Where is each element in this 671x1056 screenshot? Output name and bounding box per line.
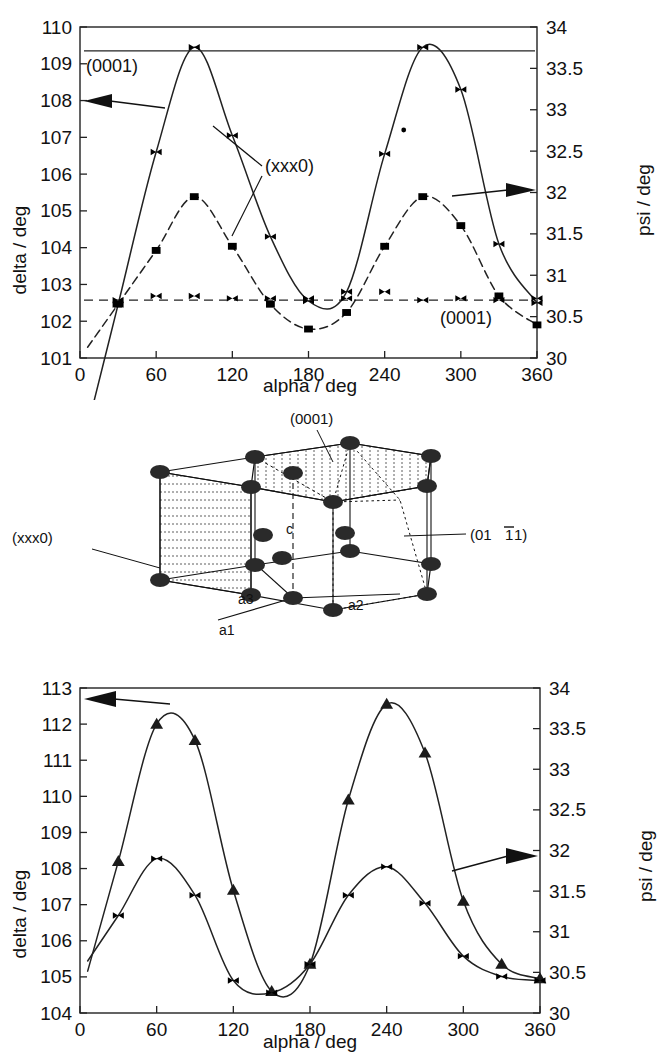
- data-point-triangle: [342, 794, 355, 805]
- x-tick-label: 120: [216, 364, 248, 385]
- y-tick-label: 108: [40, 90, 72, 111]
- crystal-label-prism: (xxx0): [12, 529, 53, 546]
- y-tick-label: 109: [40, 822, 72, 843]
- data-point-square: [380, 243, 389, 250]
- data-point-bowtie: [151, 855, 162, 861]
- bottom-chart: 0601201802403003601041051061071081091101…: [0, 666, 671, 1056]
- series-markers-stray point: [401, 128, 406, 133]
- series-curve-(0111) psi: [88, 858, 540, 994]
- data-point-bowtie: [228, 977, 239, 983]
- top-chart: 0601201802403003601011021031041051061071…: [0, 0, 671, 400]
- x-tick-label: 60: [146, 364, 167, 385]
- y2-tick-label: 33: [546, 99, 567, 120]
- series-markers-(0111) delta: [112, 698, 546, 996]
- data-point-square: [190, 193, 199, 200]
- y2-tick-label: 31.5: [549, 881, 586, 902]
- svg-text:1): 1): [514, 526, 527, 543]
- data-point-bowtie: [381, 864, 392, 870]
- data-point-bowtie: [496, 973, 507, 979]
- y2-tick-label: 34: [549, 678, 571, 699]
- data-point-bowtie: [420, 900, 431, 906]
- top-xxx0-leader: [213, 126, 262, 236]
- x-tick-label: 300: [447, 1019, 479, 1040]
- bottom-right-arrow-icon: [452, 848, 538, 871]
- y-tick-label: 110: [42, 786, 72, 807]
- y-tick-label: 104: [40, 237, 72, 258]
- y-tick-label: 102: [40, 311, 72, 332]
- top-annot-0001-lower: (0001): [440, 308, 492, 328]
- y2-tick-label: 31: [549, 921, 570, 942]
- series-markers-(0001) psi: [113, 289, 543, 304]
- data-point-square: [304, 326, 313, 333]
- y2-tick-label: 34: [546, 17, 568, 38]
- data-point-square: [533, 321, 542, 328]
- x-tick-label: 0: [75, 364, 86, 385]
- y-tick-label: 107: [40, 894, 72, 915]
- y2-tick-label: 32: [546, 182, 567, 203]
- data-point-bowtie: [227, 132, 238, 138]
- x-tick-label: 240: [369, 364, 401, 385]
- bottom-right-axis-title: psi / deg: [635, 830, 656, 902]
- data-point-square: [266, 301, 275, 308]
- data-point-square: [228, 243, 237, 250]
- data-point-dot: [401, 128, 406, 133]
- top-right-axis-title: psi / deg: [633, 164, 654, 236]
- crystal-label-pyramidal: (01 1 1): [470, 526, 527, 543]
- top-annot-0001-upper: (0001): [86, 56, 138, 76]
- data-point-square: [418, 193, 427, 200]
- x-tick-label: 300: [445, 364, 477, 385]
- x-tick-label: 120: [217, 1019, 249, 1040]
- crystal-axis-a2: a2: [348, 597, 364, 613]
- data-point-triangle: [189, 734, 202, 745]
- crystal-axis-c: c: [286, 521, 293, 537]
- data-point-triangle: [419, 747, 432, 758]
- x-tick-label: 240: [371, 1019, 403, 1040]
- data-point-square: [342, 309, 351, 316]
- crystal-axis-a1: a1: [219, 622, 235, 638]
- data-point-bowtie: [189, 293, 200, 299]
- y2-tick-label: 31.5: [546, 223, 583, 244]
- y-tick-label: 101: [40, 348, 72, 369]
- data-point-bowtie: [113, 912, 124, 918]
- bottom-chart-axes: 0601201802403003601041051061071081091101…: [40, 678, 586, 1041]
- y2-tick-label: 32.5: [546, 141, 583, 162]
- data-point-bowtie: [343, 892, 354, 898]
- data-point-square: [456, 222, 465, 229]
- y2-tick-label: 30.5: [546, 306, 583, 327]
- data-point-triangle: [457, 895, 470, 906]
- bottom-x-axis-title: alpha / deg: [263, 1031, 357, 1052]
- y2-tick-label: 33.5: [549, 718, 586, 739]
- top-chart-data: [84, 44, 543, 400]
- prism-plane-face: [160, 472, 251, 595]
- top-annot-xxx0: (xxx0): [265, 156, 314, 176]
- data-point-triangle: [227, 884, 240, 895]
- data-point-bowtie: [190, 892, 201, 898]
- y-tick-label: 112: [42, 714, 72, 735]
- y-tick-label: 107: [40, 127, 72, 148]
- top-left-arrow-icon: [84, 94, 165, 108]
- y-tick-label: 111: [43, 750, 72, 771]
- data-point-bowtie: [151, 293, 162, 299]
- crystal-label-basal: (0001): [290, 410, 333, 427]
- y2-tick-label: 32.5: [549, 799, 586, 820]
- y2-tick-label: 30.5: [549, 962, 586, 983]
- data-point-triangle: [112, 855, 125, 866]
- x-tick-label: 0: [75, 1019, 86, 1040]
- y2-tick-label: 30: [546, 348, 567, 369]
- y-tick-label: 113: [42, 678, 72, 699]
- y-tick-label: 108: [40, 858, 72, 879]
- y-tick-label: 105: [40, 200, 72, 221]
- series-curve-(0111) delta: [88, 703, 540, 997]
- y-tick-label: 109: [40, 53, 72, 74]
- data-point-bowtie: [458, 953, 469, 959]
- bottom-chart-data: [88, 698, 547, 997]
- data-point-bowtie: [379, 289, 390, 295]
- y-tick-label: 103: [40, 274, 72, 295]
- series-markers-(0111) psi: [113, 855, 546, 995]
- series-markers-(xxx0) delta: [113, 44, 543, 308]
- crystal-unit-cell-diagram: (0001) (xxx0) (01 1 1) c a1 a2 a3: [0, 410, 671, 670]
- y-tick-label: 106: [40, 164, 72, 185]
- bottom-left-arrow-icon: [84, 691, 170, 707]
- y-tick-label: 105: [40, 966, 72, 987]
- data-point-bowtie: [265, 233, 276, 239]
